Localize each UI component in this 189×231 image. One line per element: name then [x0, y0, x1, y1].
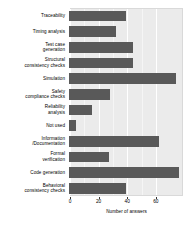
category-label: Behavioral consistency checks [0, 183, 69, 194]
bar-row: Formal verification [0, 149, 189, 165]
category-label: Simulation [0, 76, 69, 81]
bar-cell [69, 8, 189, 24]
category-label: Timing analysis [0, 29, 69, 34]
bar-row: Not used [0, 118, 189, 134]
category-label: Reliability analysis [0, 104, 69, 115]
category-label: Code generation [0, 170, 69, 175]
bar-row: Safety compliance checks [0, 86, 189, 102]
bar [69, 58, 133, 69]
category-label: Safety compliance checks [0, 89, 69, 100]
x-axis-tick-label: 60 [153, 199, 158, 205]
bar-cell [69, 55, 189, 71]
category-label: Information /Documentation [0, 136, 69, 147]
bar [69, 89, 110, 100]
bar-row: Information /Documentation [0, 133, 189, 149]
bar-cell [69, 102, 189, 118]
bar [69, 11, 126, 22]
bar [69, 136, 159, 147]
x-axis-ticks: 0204060 [70, 197, 183, 207]
bar-cell [69, 133, 189, 149]
category-label: Traceability [0, 13, 69, 18]
bar-rows: TraceabilityTiming analysisTest case gen… [0, 8, 189, 196]
bar [69, 167, 179, 178]
bar [69, 26, 116, 37]
bar-row: Behavioral consistency checks [0, 180, 189, 196]
bar [69, 73, 176, 84]
bar [69, 42, 133, 53]
bar-cell [69, 86, 189, 102]
bar [69, 105, 92, 116]
bar-row: Structural consistency checks [0, 55, 189, 71]
x-axis-title: Number of answers [70, 209, 183, 215]
bar-cell [69, 71, 189, 87]
plot-area: TraceabilityTiming analysisTest case gen… [0, 0, 189, 231]
bar-cell [69, 149, 189, 165]
x-axis-tick-label: 40 [125, 199, 130, 205]
bar-row: Test case generation [0, 39, 189, 55]
bar [69, 152, 109, 163]
bar-row: Timing analysis [0, 24, 189, 40]
bar-cell [69, 118, 189, 134]
category-label: Test case generation [0, 42, 69, 53]
bar-row: Traceability [0, 8, 189, 24]
category-label: Formal verification [0, 151, 69, 162]
bar-cell [69, 180, 189, 196]
bar-cell [69, 24, 189, 40]
bar-cell [69, 165, 189, 181]
bar-row: Simulation [0, 71, 189, 87]
bar-cell [69, 39, 189, 55]
x-axis-tick-label: 0 [69, 199, 72, 205]
category-label: Not used [0, 123, 69, 128]
bar-chart: TraceabilityTiming analysisTest case gen… [0, 0, 189, 231]
bar-row: Code generation [0, 165, 189, 181]
bar-row: Reliability analysis [0, 102, 189, 118]
x-axis-tick-label: 20 [96, 199, 101, 205]
bar [69, 120, 76, 131]
category-label: Structural consistency checks [0, 57, 69, 68]
bar [69, 183, 126, 194]
